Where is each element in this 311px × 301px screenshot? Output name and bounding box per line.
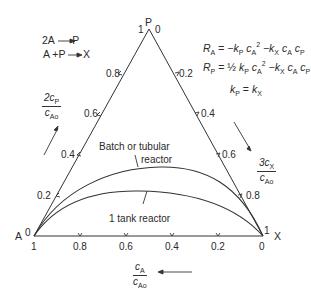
batch-curve-label-line1: Batch or tubular [99, 142, 170, 152]
bottom-tick-1: 1 [31, 242, 37, 252]
bottom-tick-0: 0 [259, 242, 265, 252]
vertex-x-value: 1 [264, 226, 270, 236]
right-axis-arrow [234, 122, 251, 151]
batch-curve-label-line2: reactor [141, 155, 172, 165]
right-tick-0.2: 0.2 [179, 69, 193, 79]
vertex-p-label: P [145, 17, 152, 28]
vertex-x-label: X [274, 231, 281, 242]
left-axis-arrow [44, 126, 58, 155]
bottom-tick-0.2: 0.2 [211, 242, 225, 252]
rate-equation-rp: RP = ½ kP cA2 −kX cA cP = ½ kₚ cₐ² −kₓ c… [203, 60, 310, 75]
bottom-axis-label: cA cAo [133, 262, 147, 290]
left-axis-label: 2cP cAo [42, 93, 61, 121]
batch-tubular-reactor-curve [34, 167, 263, 236]
rate-constants-equality: kP = kX kₚ = kₓ [230, 83, 262, 97]
bottom-tick-0.6: 0.6 [119, 242, 133, 252]
reaction-2: A + P → XA +P X [43, 49, 90, 60]
left-tick-0.8: 0.8 [106, 69, 120, 79]
bottom-axis-arrow [158, 270, 192, 274]
bottom-tick-0.8: 0.8 [73, 242, 87, 252]
rate-equation-ra: RA = −kP cA2 −kX cA cP = −kₚ cₐ² −kₓ cₐ … [203, 41, 305, 56]
vertex-a-label: A [15, 231, 22, 242]
right-axis-label: 3cX cAo [257, 158, 276, 186]
right-tick-0.4: 0.4 [201, 109, 215, 119]
left-tick-0.6: 0.6 [84, 109, 98, 119]
reaction-1: 2A → P2A P [42, 35, 79, 46]
right-tick-0.6: 0.6 [222, 150, 236, 160]
bottom-tick-0.4: 0.4 [165, 242, 179, 252]
tank-curve-label: 1 tank reactor [109, 214, 170, 224]
vertex-p-left-value: 1 [138, 25, 144, 35]
vertex-p-right-value: 0 [155, 25, 161, 35]
tank-label-leader [143, 191, 147, 204]
left-tick-0.4: 0.4 [61, 150, 75, 160]
batch-label-leader [135, 155, 138, 167]
right-tick-0.8: 0.8 [246, 191, 260, 201]
vertex-a-value: 0 [25, 228, 31, 238]
left-tick-0.2: 0.2 [37, 191, 51, 201]
